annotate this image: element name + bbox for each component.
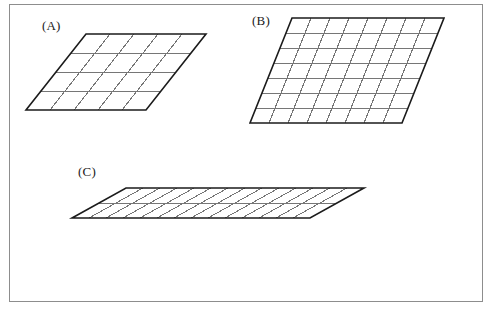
parallelogram-c xyxy=(70,186,366,220)
parallelogram-b xyxy=(248,16,446,125)
figure-label-c: (C) xyxy=(78,164,96,180)
parallelogram-a xyxy=(24,32,208,112)
figure-page: (A) (B) (C) xyxy=(0,0,493,314)
parallelogram-c-svg xyxy=(70,186,366,220)
parallelogram-a-svg xyxy=(24,32,208,112)
parallelogram-b-svg xyxy=(248,16,446,125)
